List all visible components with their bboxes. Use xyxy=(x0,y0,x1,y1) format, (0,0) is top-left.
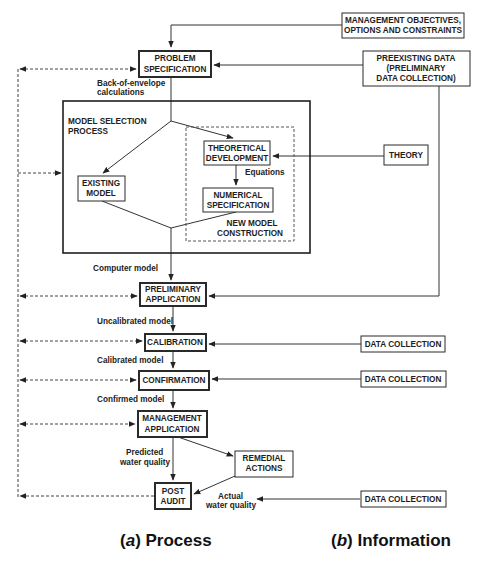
svg-text:NEW MODEL: NEW MODEL xyxy=(227,219,278,228)
label-uncalibrated-model: Uncalibrated model xyxy=(97,317,173,326)
svg-text:NUMERICAL: NUMERICAL xyxy=(213,191,262,200)
svg-text:CALIBRATION: CALIBRATION xyxy=(147,338,203,347)
svg-text:DEVELOPMENT: DEVELOPMENT xyxy=(206,154,268,163)
svg-text:POST: POST xyxy=(162,487,184,496)
label-predicted-2: water quality xyxy=(119,458,170,467)
numerical-specification-box: NUMERICAL SPECIFICATION xyxy=(203,188,273,212)
svg-text:OPTIONS AND CONSTRAINTS: OPTIONS AND CONSTRAINTS xyxy=(344,26,463,35)
svg-text:(PRELIMINARY: (PRELIMINARY xyxy=(387,64,446,73)
svg-text:MODEL: MODEL xyxy=(86,189,116,198)
theory-box: THEORY xyxy=(384,145,428,165)
svg-text:CONFIRMATION: CONFIRMATION xyxy=(142,376,205,385)
svg-text:APPLICATION: APPLICATION xyxy=(146,295,201,304)
arrow-to-remedial xyxy=(178,437,233,456)
svg-text:PROCESS: PROCESS xyxy=(68,127,109,136)
svg-text:AUDIT: AUDIT xyxy=(160,497,185,506)
management-objectives-box: MANAGEMENT OBJECTIVES, OPTIONS AND CONST… xyxy=(342,13,464,38)
data-collection-box-3: DATA COLLECTION xyxy=(361,491,446,507)
label-back-of-envelope-2: calculations xyxy=(97,88,145,97)
label-equations: Equations xyxy=(245,168,285,177)
svg-text:THEORY: THEORY xyxy=(389,151,423,160)
svg-text:DATA COLLECTION: DATA COLLECTION xyxy=(365,340,442,349)
preexisting-data-box: PREEXISTING DATA (PRELIMINARY DATA COLLE… xyxy=(363,51,470,86)
caption-information: (b) Information xyxy=(331,531,451,550)
svg-text:MANAGEMENT: MANAGEMENT xyxy=(142,414,202,423)
label-back-of-envelope-1: Back-of-envelope xyxy=(97,79,166,88)
label-actual-2: water quality xyxy=(205,501,256,510)
svg-text:THEORETICAL: THEORETICAL xyxy=(208,144,266,153)
svg-text:DATA COLLECTION: DATA COLLECTION xyxy=(365,495,442,504)
svg-text:APPLICATION: APPLICATION xyxy=(145,425,200,434)
svg-text:DATA COLLECTION: DATA COLLECTION xyxy=(365,375,442,384)
label-actual-1: Actual xyxy=(218,492,243,501)
confirmation-box: CONFIRMATION xyxy=(139,371,209,390)
post-audit-box: POST AUDIT xyxy=(155,483,191,509)
arrow-objectives-to-problem xyxy=(171,25,342,47)
existing-model-box: EXISTING MODEL xyxy=(78,176,125,201)
svg-text:CONSTRUCTION: CONSTRUCTION xyxy=(217,229,283,238)
arrow-to-existing-model xyxy=(103,121,171,173)
svg-text:PROBLEM: PROBLEM xyxy=(155,54,196,63)
management-application-box: MANAGEMENT APPLICATION xyxy=(138,411,207,437)
svg-text:PRELIMINARY: PRELIMINARY xyxy=(145,285,202,294)
svg-text:REMEDIAL: REMEDIAL xyxy=(243,454,286,463)
calibration-box: CALIBRATION xyxy=(145,334,206,351)
caption-process: (a) Process xyxy=(120,531,212,550)
problem-specification-box: PROBLEM SPECIFICATION xyxy=(139,51,211,77)
svg-text:ACTIONS: ACTIONS xyxy=(246,464,283,473)
svg-text:PREEXISTING DATA: PREEXISTING DATA xyxy=(377,54,456,63)
theoretical-development-box: THEORETICAL DEVELOPMENT xyxy=(204,141,270,165)
svg-text:DATA COLLECTION): DATA COLLECTION) xyxy=(376,74,456,83)
svg-text:SPECIFICATION: SPECIFICATION xyxy=(207,201,270,210)
label-predicted-1: Predicted xyxy=(126,448,163,457)
label-computer-model: Computer model xyxy=(93,264,158,273)
arrow-to-theoretical xyxy=(171,121,233,138)
flow-diagram: MANAGEMENT OBJECTIVES, OPTIONS AND CONST… xyxy=(0,0,478,562)
svg-text:EXISTING: EXISTING xyxy=(82,179,120,188)
data-collection-box-2: DATA COLLECTION xyxy=(361,371,446,387)
svg-text:SPECIFICATION: SPECIFICATION xyxy=(144,65,207,74)
svg-text:MODEL SELECTION: MODEL SELECTION xyxy=(68,117,147,126)
preliminary-application-box: PRELIMINARY APPLICATION xyxy=(140,283,206,306)
remedial-actions-box: REMEDIAL ACTIONS xyxy=(235,451,293,477)
data-collection-box-1: DATA COLLECTION xyxy=(361,336,445,352)
svg-text:MANAGEMENT OBJECTIVES,: MANAGEMENT OBJECTIVES, xyxy=(345,16,461,25)
label-confirmed-model: Confirmed model xyxy=(97,395,164,404)
label-calibrated-model: Calibrated model xyxy=(97,356,163,365)
line-existing-merge xyxy=(102,201,171,228)
